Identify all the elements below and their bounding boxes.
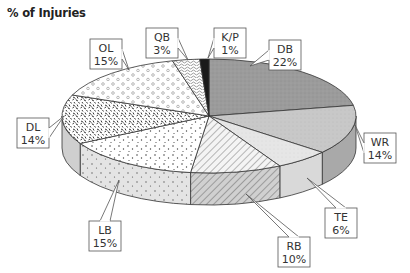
callout-pointer — [208, 38, 214, 58]
callout-value: 3% — [153, 44, 170, 57]
callout-kp: K/P1% — [208, 28, 246, 58]
callout-value: 10% — [282, 253, 306, 266]
callout-dl: DL14% — [17, 116, 64, 148]
callout-qb: QB3% — [146, 28, 188, 60]
callout-pointer — [122, 49, 129, 70]
callout-category: LB — [98, 224, 112, 237]
callout-category: DL — [26, 121, 41, 134]
callout-pointer — [178, 38, 188, 60]
callout-lb: LB15% — [89, 180, 121, 251]
callout-category: WR — [371, 136, 390, 149]
callout-category: QB — [154, 31, 170, 44]
callout-ol: OL15% — [90, 39, 129, 70]
callout-value: 6% — [332, 224, 349, 237]
callout-value: 14% — [368, 149, 392, 162]
pie-chart: DB22%WR14%TE6%RB10%LB15%DL14%OL15%QB3%K/… — [0, 0, 410, 273]
callout-category: K/P — [221, 31, 239, 44]
callout-rb: RB10% — [246, 194, 310, 267]
callout-category: TE — [333, 211, 348, 224]
callout-value: 14% — [21, 134, 45, 147]
callout-value: 15% — [94, 55, 118, 68]
pie-top-faces — [62, 59, 356, 173]
callout-category: RB — [286, 240, 301, 253]
callout-value: 15% — [93, 237, 117, 250]
callout-value: 1% — [221, 44, 238, 57]
callout-category: DB — [277, 43, 293, 56]
callout-value: 22% — [273, 56, 297, 69]
callout-category: OL — [99, 42, 115, 55]
callout-wr: WR14% — [355, 125, 396, 163]
callout-pointer — [246, 194, 299, 237]
